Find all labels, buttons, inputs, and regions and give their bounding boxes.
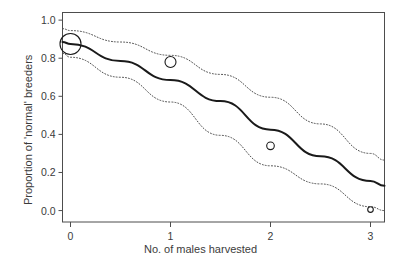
x-tick-label: 2 [268,230,274,242]
data-point-marker-2 [267,142,275,150]
data-point-marker-3 [368,207,374,213]
y-axis-title: Proportion of 'normal' breeders [22,55,34,205]
y-tick-label: 1.0 [41,14,56,26]
y-tick-label: 0.8 [41,52,56,64]
x-axis-ticks [71,222,371,227]
x-tick-label: 1 [168,230,174,242]
data-series-layer [63,29,385,211]
chart-container: 0.00.20.40.60.81.0 0123 No. of males har… [0,0,401,266]
data-point-markers [60,33,373,212]
x-tick-label: 3 [368,230,374,242]
series-lower-confidence-limit [63,53,385,210]
series-fitted [63,42,385,186]
y-tick-label: 0.4 [41,128,56,140]
y-tick-label: 0.2 [41,166,56,178]
series-upper-confidence-limit [63,29,385,160]
plot-area-svg [0,0,401,266]
x-tick-label: 0 [68,230,74,242]
plot-frame [63,13,385,223]
data-point-marker-1 [165,57,176,68]
y-axis-ticks [59,20,63,210]
x-axis-title: No. of males harvested [0,243,401,255]
y-tick-label: 0.0 [41,205,56,217]
y-tick-label: 0.6 [41,90,56,102]
